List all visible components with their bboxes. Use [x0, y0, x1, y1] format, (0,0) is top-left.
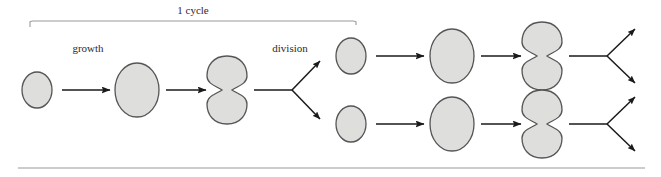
dividing-cell [207, 56, 247, 124]
division-fork [569, 29, 635, 83]
grown-cell [430, 29, 474, 83]
grown-cell [115, 63, 159, 117]
label-growth: growth [72, 42, 104, 54]
small-cell [22, 72, 52, 108]
small-cell [336, 38, 366, 74]
division-fork [569, 97, 635, 151]
daughter-row-lower [336, 90, 635, 158]
dividing-cell [522, 22, 562, 90]
parent-row [22, 56, 320, 124]
diagram-canvas: 1 cycle growth division [0, 0, 661, 177]
small-cell [336, 106, 366, 142]
daughter-row-upper [336, 22, 635, 90]
dividing-cell [522, 90, 562, 158]
cycle-bracket [30, 21, 356, 27]
cell-cycle-figure: 1 cycle growth division [0, 0, 661, 177]
division-fork [254, 61, 320, 119]
grown-cell [430, 97, 474, 151]
label-division: division [272, 42, 308, 54]
label-cycle: 1 cycle [177, 4, 209, 16]
